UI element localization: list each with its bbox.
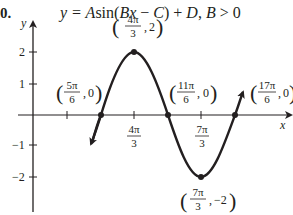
svg-text:4π: 4π — [127, 13, 139, 25]
svg-text:): ) — [95, 80, 102, 105]
svg-text:(: ( — [112, 14, 119, 39]
svg-text:): ) — [229, 188, 236, 213]
label-min: ( 7π 3 , −2 ) — [180, 186, 236, 213]
svg-text:6: 6 — [264, 93, 270, 105]
svg-text:5π: 5π — [66, 79, 78, 91]
y-axis-label: y — [20, 16, 27, 30]
svg-text:0: 0 — [88, 86, 94, 100]
svg-text:0: 0 — [203, 86, 209, 100]
min-point — [198, 174, 204, 180]
y-tick-2: 2 — [19, 45, 25, 59]
eq-close: ) + — [164, 4, 186, 22]
svg-text:): ) — [289, 80, 293, 105]
svg-text:,: , — [144, 20, 147, 34]
eq-comma: , — [198, 4, 206, 21]
x-tick-4pi3-num: 4π — [128, 123, 140, 135]
svg-text:(: ( — [180, 188, 187, 213]
svg-text:11π: 11π — [178, 79, 195, 91]
curve-left-arrow — [91, 115, 101, 144]
svg-text:3: 3 — [195, 200, 201, 212]
svg-text:): ) — [156, 14, 163, 39]
svg-text:): ) — [210, 80, 217, 105]
eq-B: B — [206, 4, 216, 21]
svg-text:6: 6 — [69, 93, 75, 105]
y-tick-1: 1 — [19, 77, 25, 91]
max-point — [131, 49, 137, 55]
eq-minus: − — [136, 4, 153, 21]
svg-text:,: , — [209, 193, 212, 207]
y-tick-neg2: −2 — [12, 170, 25, 184]
x-axis-label: x — [279, 118, 286, 132]
problem-number: 0. — [0, 5, 12, 21]
x-ticks: 4π 3 7π 3 — [67, 111, 209, 149]
label-zero-3: ( 17π 6 , 0 ) — [250, 79, 293, 105]
svg-text:6: 6 — [183, 93, 189, 105]
svg-text:3: 3 — [130, 27, 136, 39]
x-tick-4pi3-den: 3 — [131, 137, 137, 149]
svg-text:,: , — [83, 86, 86, 100]
zero-point-3 — [232, 112, 238, 118]
svg-text:−2: −2 — [214, 193, 227, 207]
eq-D: D — [185, 4, 198, 21]
svg-text:(: ( — [169, 80, 176, 105]
eq-gt: > 0 — [216, 4, 241, 21]
svg-text:7π: 7π — [192, 186, 204, 198]
svg-text:,: , — [197, 86, 200, 100]
y-tick-neg1: −1 — [12, 138, 25, 152]
zero-point-1 — [98, 112, 104, 118]
eq-y: y = — [58, 4, 86, 22]
x-tick-7pi3-num: 7π — [196, 123, 208, 135]
label-zero-1: ( 5π 6 , 0 ) — [56, 79, 102, 105]
eq-A: A — [85, 4, 96, 21]
svg-text:(: ( — [250, 80, 257, 105]
sinusoid-graph: 0. y = Asin(Bx − C) + D, B > 0 y x 2 1 −… — [0, 0, 293, 215]
svg-text:2: 2 — [149, 20, 155, 34]
x-tick-7pi3-den: 3 — [199, 137, 205, 149]
svg-text:(: ( — [56, 80, 63, 105]
label-zero-2: ( 11π 6 , 0 ) — [169, 79, 217, 105]
svg-text:,: , — [278, 86, 281, 100]
svg-text:17π: 17π — [259, 79, 276, 91]
zero-point-2 — [165, 112, 171, 118]
